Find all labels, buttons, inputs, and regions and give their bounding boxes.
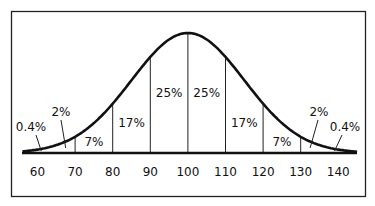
normal-curve (23, 33, 358, 152)
region-percent-label: 2% (51, 105, 70, 119)
region-percent-label: 0.4% (330, 120, 361, 134)
x-tick-label: 90 (143, 165, 158, 179)
x-tick-label: 120 (252, 165, 275, 179)
x-tick-label: 60 (30, 165, 45, 179)
region-percent-label: 2% (309, 105, 328, 119)
bell-curve-chart: 60708090100110120130140 0.4%2%7%17%25%25… (0, 0, 375, 206)
region-percent-label: 0.4% (16, 120, 47, 134)
x-tick-label: 100 (176, 165, 199, 179)
x-tick-label: 110 (214, 165, 237, 179)
region-percent-label: 25% (193, 86, 220, 100)
region-percent-label: 17% (118, 116, 145, 130)
x-tick-label: 80 (105, 165, 120, 179)
x-tick-label: 130 (289, 165, 312, 179)
x-tick-label: 70 (67, 165, 82, 179)
region-percent-label: 7% (272, 135, 291, 149)
region-percent-label: 25% (156, 86, 183, 100)
x-tick-label: 140 (327, 165, 350, 179)
region-percent-label: 7% (84, 135, 103, 149)
region-percent-label: 17% (231, 116, 258, 130)
